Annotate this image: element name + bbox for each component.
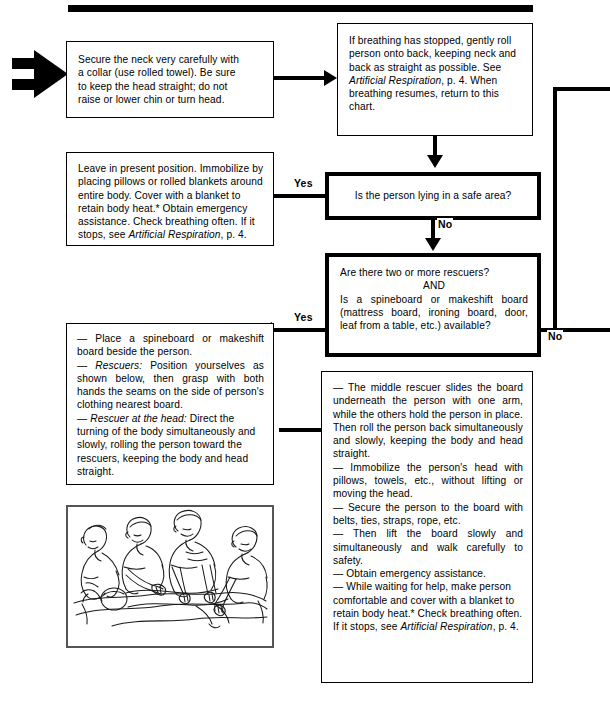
flowchart-page: Secure the neck very carefully with a co… bbox=[0, 0, 610, 702]
box-leave-in-present-position-text: Leave in present position. Immobilize by… bbox=[78, 162, 264, 242]
connector-secure-to-breathing-arrowhead bbox=[324, 70, 337, 86]
leave-text-part2: , p. 4. bbox=[221, 229, 247, 240]
box-place-spineboard-text: — Place a spineboard or makeshift board … bbox=[77, 332, 264, 478]
entry-arrow-head bbox=[34, 50, 68, 98]
middle-rescuer-bullet-6-part2: , p. 4. bbox=[493, 621, 519, 632]
middle-rescuer-bullet-3: — Secure the person to the board with be… bbox=[333, 501, 523, 528]
label-no-safe-area: No bbox=[437, 218, 453, 230]
box-secure-the-neck-text: Secure the neck very carefully with a co… bbox=[78, 53, 263, 106]
middle-rescuer-bullet-1: — The middle rescuer slides the board un… bbox=[333, 381, 523, 461]
place-spineboard-bullet-1: — Place a spineboard or makeshift board … bbox=[77, 332, 264, 359]
box-leave-in-present-position: Leave in present position. Immobilize by… bbox=[66, 152, 274, 246]
box-place-spineboard: — Place a spineboard or makeshift board … bbox=[66, 323, 274, 485]
box-middle-rescuer-text: — The middle rescuer slides the board un… bbox=[333, 381, 523, 634]
decision-rescuers-and-board-text: Are there two or more rescuers? AND Is a… bbox=[340, 266, 528, 332]
middle-rescuer-bullet-5: — Obtain emergency assistance. bbox=[333, 567, 523, 580]
box-if-breathing-has-stopped-text: If breathing has stopped, gently roll pe… bbox=[349, 34, 522, 114]
place-spineboard-bullet-3-emphasis: — Rescuer at the head: bbox=[77, 413, 187, 424]
label-yes-safe-area: Yes bbox=[293, 177, 314, 189]
leave-text-italic: Artificial Respiration bbox=[128, 229, 220, 240]
box-middle-rescuer: — The middle rescuer slides the board un… bbox=[321, 371, 533, 683]
decision-rescuers-line1: Are there two or more rescuers? bbox=[340, 266, 528, 279]
four-rescuers-log-roll-illustration bbox=[66, 505, 274, 648]
middle-rescuer-bullet-2: — Immobilize the person's head with pill… bbox=[333, 461, 523, 501]
decision-rescuers-and-board: Are there two or more rescuers? AND Is a… bbox=[325, 253, 541, 357]
log-roll-drawing bbox=[68, 507, 272, 646]
decision-safe-area-text: Is the person lying in a safe area? bbox=[355, 189, 511, 202]
label-yes-board: Yes bbox=[293, 311, 314, 323]
entry-arrow-icon bbox=[12, 50, 68, 98]
place-spineboard-bullet-2-emphasis: — Rescuers: bbox=[77, 360, 142, 371]
breathing-text-part1: If breathing has stopped, gently roll pe… bbox=[349, 35, 516, 73]
box-if-breathing-has-stopped: If breathing has stopped, gently roll pe… bbox=[337, 23, 533, 136]
decision-rescuers-line2: AND bbox=[340, 279, 528, 292]
connector-breathing-to-safearea-arrowhead bbox=[427, 155, 443, 168]
decision-is-person-in-safe-area: Is the person lying in a safe area? bbox=[325, 172, 541, 220]
middle-rescuer-bullet-4: — Then lift the board slowly and simulta… bbox=[333, 527, 523, 567]
label-no-board: No bbox=[547, 330, 563, 342]
connector-secure-to-breathing bbox=[274, 76, 326, 80]
connector-spineboard-to-middle-rescuer bbox=[279, 428, 327, 432]
top-rule-bar bbox=[68, 5, 533, 12]
connector-safearea-no-arrowhead bbox=[425, 238, 441, 251]
breathing-text-italic: Artificial Respiration bbox=[349, 75, 441, 86]
box-secure-the-neck: Secure the neck very carefully with a co… bbox=[66, 41, 274, 118]
decision-rescuers-line3: Is a spineboard or makeshift board (matt… bbox=[340, 293, 528, 333]
connector-board-no-path bbox=[553, 87, 610, 332]
middle-rescuer-bullet-6-italic: Artificial Respiration bbox=[400, 621, 492, 632]
